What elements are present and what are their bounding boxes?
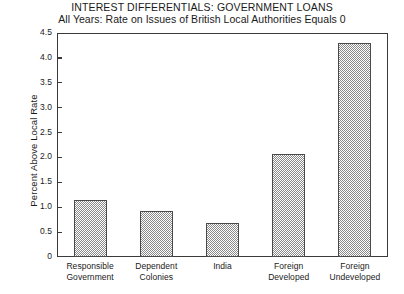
bar: [206, 223, 239, 257]
x-axis-labels: ResponsibleGovernmentDependentColoniesIn…: [57, 261, 388, 294]
y-tick-label: 3.5: [16, 77, 52, 87]
y-tick-label: 4.0: [16, 52, 52, 62]
x-axis-label-line: Foreign: [274, 261, 303, 271]
bar: [74, 200, 107, 257]
y-tick-label: 0: [16, 251, 52, 261]
y-tick-label: 4.5: [16, 27, 52, 37]
y-tick-label: 1.0: [16, 201, 52, 211]
x-axis-label-line: Undeveloped: [314, 272, 396, 283]
chart-subtitle: All Years: Rate on Issues of British Loc…: [0, 13, 404, 25]
bar: [338, 43, 371, 257]
chart-title: INTEREST DIFFERENTIALS: GOVERNMENT LOANS: [0, 1, 404, 13]
y-tick-label: 0.5: [16, 226, 52, 236]
x-axis-label-line: Dependent: [135, 261, 177, 271]
bars-container: [57, 33, 388, 257]
y-tick-label: 2.0: [16, 151, 52, 161]
y-tick-label: 3.0: [16, 102, 52, 112]
x-axis-label-line: Responsible: [66, 261, 113, 271]
bar-chart: INTEREST DIFFERENTIALS: GOVERNMENT LOANS…: [0, 0, 404, 294]
x-axis-label-line: Colonies: [115, 272, 197, 283]
bar: [140, 211, 173, 257]
y-tick-label: 2.5: [16, 127, 52, 137]
y-tick-label: 1.5: [16, 176, 52, 186]
x-axis-label-line: Foreign: [340, 261, 369, 271]
x-axis-label-line: India: [213, 261, 232, 271]
bar: [272, 154, 305, 257]
x-axis-label: ForeignUndeveloped: [314, 261, 396, 282]
chart-title-block: INTEREST DIFFERENTIALS: GOVERNMENT LOANS…: [0, 1, 404, 25]
